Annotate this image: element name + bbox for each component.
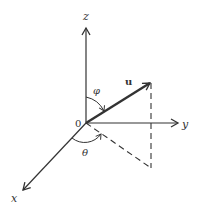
spherical-coordinates-diagram: z y x 0 u φ θ <box>0 0 200 209</box>
vector-u-label: u <box>125 76 132 87</box>
xy-projection-dashed <box>86 123 151 168</box>
y-axis-label: y <box>181 118 189 131</box>
phi-arc <box>86 97 104 111</box>
origin-label: 0 <box>75 118 81 129</box>
theta-label: θ <box>82 147 88 158</box>
phi-label: φ <box>93 85 100 96</box>
x-axis <box>23 123 86 190</box>
x-axis-label: x <box>11 192 18 205</box>
theta-arc <box>72 134 101 142</box>
z-axis-label: z <box>82 10 89 23</box>
